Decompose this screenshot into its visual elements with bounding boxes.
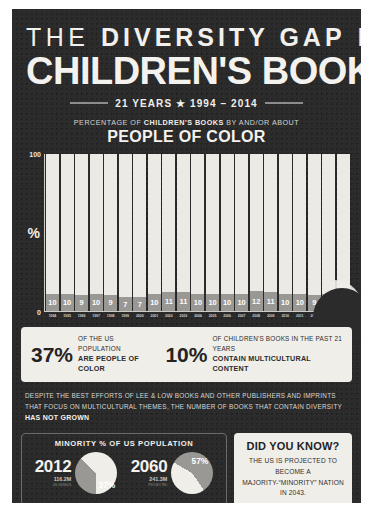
minority-population-panel: MINORITY % OF US POPULATION 2012 116.2M … xyxy=(21,433,227,503)
chart-bar-segment: 10 xyxy=(279,294,292,312)
chart-bar-value: 10 xyxy=(223,299,231,306)
chart-bar-segment: 9 xyxy=(75,295,88,312)
did-you-know-panel: DID YOU KNOW? THE US IS PROJECTED TO BEC… xyxy=(234,433,352,503)
chart-bar: 11 xyxy=(177,154,190,311)
pie-2060-labels: 2060 241.3M PROJECTED xyxy=(131,458,168,487)
pie-chart-2060: 57% xyxy=(171,452,213,494)
chart-bar: 10 xyxy=(61,154,74,311)
stat-band: 37% OF THE US POPULATIONARE PEOPLE OF CO… xyxy=(21,327,352,382)
x-axis-tick: 1997 xyxy=(90,314,103,318)
y-axis: 100 % 0 xyxy=(20,154,44,312)
pie-charts: 2012 116.2M US CENSUS 37% 2060 241.3M PR… xyxy=(28,452,220,494)
chart-bar: 9 xyxy=(104,154,117,311)
chart-bar-value: 11 xyxy=(165,298,173,305)
years-row: 21 YEARS ★ 1994 – 2014 xyxy=(26,98,347,109)
stat-population-text: OF THE US POPULATIONARE PEOPLE OF COLOR xyxy=(78,334,151,375)
chart-bar-value: 10 xyxy=(194,299,202,306)
chart-bar: 11 xyxy=(264,154,277,311)
x-axis-tick: 1994 xyxy=(46,314,59,318)
chart-bar-value: 11 xyxy=(179,298,187,305)
infographic-poster: THE DIVERSITY GAP IN CHILDREN'S BOOKS 21… xyxy=(12,9,361,503)
chart-bar: 10 xyxy=(90,154,103,311)
chart-bar-value: 9 xyxy=(80,299,84,306)
did-you-know-title: DID YOU KNOW? xyxy=(240,440,346,452)
x-axis-tick: 2003 xyxy=(177,314,190,318)
chart-bar-segment: 10 xyxy=(90,294,103,312)
x-axis-tick: 2007 xyxy=(235,314,248,318)
x-axis-tick: 2006 xyxy=(221,314,234,318)
rule-right xyxy=(265,102,303,104)
x-axis-tick: 2000 xyxy=(133,314,146,318)
pie-2060-note: PROJECTED xyxy=(131,483,168,487)
did-you-know-body: THE US IS PROJECTED TO BECOME A MAJORITY… xyxy=(240,456,346,500)
x-axis-labels: 1994199519961997199819992000200120022003… xyxy=(45,314,351,318)
chart-bar-value: 10 xyxy=(63,299,71,306)
pie-2060-year: 2060 xyxy=(131,458,168,475)
chart-bar-value: 7 xyxy=(138,301,142,308)
stat-books: 10% OF CHILDREN'S BOOKS IN THE PAST 21 Y… xyxy=(165,334,342,375)
x-axis-tick: 2009 xyxy=(264,314,277,318)
chart-title: PEOPLE OF COLOR xyxy=(26,128,347,146)
chart-bar-value: 10 xyxy=(281,299,289,306)
chart-bar: 10 xyxy=(235,154,248,311)
chart-bar-segment: 11 xyxy=(264,292,277,311)
chart-subtitle: PERCENTAGE OF CHILDREN'S BOOKS BY AND/OR… xyxy=(26,118,347,127)
chart-bar-segment: 12 xyxy=(250,291,263,311)
stat-books-number: 10% xyxy=(165,344,207,365)
chart-bar-value: 9 xyxy=(109,299,113,306)
chart-bar: 7 xyxy=(133,154,146,311)
page-title-line1: THE DIVERSITY GAP IN xyxy=(26,25,347,50)
pie-chart-2012: 37% xyxy=(75,452,117,494)
y-tick-100: 100 xyxy=(29,151,41,158)
chart-bar-segment: 10 xyxy=(206,294,219,312)
x-axis-tick: 1998 xyxy=(104,314,117,318)
chart-bar-value: 7 xyxy=(123,301,127,308)
chart-bar-value: 10 xyxy=(208,299,216,306)
pie-2012-labels: 2012 116.2M US CENSUS xyxy=(35,458,72,487)
chart-bar-value: 11 xyxy=(267,298,275,305)
minority-panel-title: MINORITY % OF US POPULATION xyxy=(28,439,220,448)
pie-2060-population: 241.3M xyxy=(131,476,168,482)
chart-bar: 10 xyxy=(191,154,204,311)
chart-bar-segment: 10 xyxy=(191,294,204,312)
x-axis-tick: 2005 xyxy=(206,314,219,318)
pie-2060-percent: 57% xyxy=(192,456,209,466)
chart-bar-value: 10 xyxy=(296,299,304,306)
chart-bar-segment: 10 xyxy=(235,294,248,312)
chart-bar-segment: 10 xyxy=(148,294,161,312)
chart-bar-value: 10 xyxy=(237,299,245,306)
chart-bar-segment: 7 xyxy=(119,297,132,311)
pie-2012-percent: 37% xyxy=(99,480,116,490)
y-axis-label: % xyxy=(28,225,40,241)
x-axis-tick: 2008 xyxy=(250,314,263,318)
pie-block-2060: 2060 241.3M PROJECTED 57% xyxy=(131,452,214,494)
pie-block-2012: 2012 116.2M US CENSUS 37% xyxy=(35,452,118,494)
chart-bar: 10 xyxy=(206,154,219,311)
pie-2012-population: 116.2M xyxy=(35,476,72,482)
chart-bar: 9 xyxy=(308,154,321,311)
years-range: 21 YEARS ★ 1994 – 2014 xyxy=(115,98,258,109)
pie-2012-year: 2012 xyxy=(35,458,72,475)
stat-population-number: 37% xyxy=(31,344,73,365)
chart-bar: 9 xyxy=(75,154,88,311)
lower-panels: MINORITY % OF US POPULATION 2012 116.2M … xyxy=(21,433,352,503)
x-axis-tick: 2004 xyxy=(191,314,204,318)
header: THE DIVERSITY GAP IN CHILDREN'S BOOKS 21… xyxy=(12,9,361,145)
x-axis-tick: 2011 xyxy=(293,314,306,318)
chart-bar-value: 10 xyxy=(48,299,56,306)
x-axis-tick: 1996 xyxy=(75,314,88,318)
chart-bar-segment: 7 xyxy=(133,297,146,311)
chart-bar-segment: 10 xyxy=(221,294,234,312)
chart-bar: 10 xyxy=(279,154,292,311)
chart-bar-segment: 10 xyxy=(293,294,306,312)
x-axis-tick: 2010 xyxy=(279,314,292,318)
x-axis-tick: 2001 xyxy=(148,314,161,318)
chart-bar-value: 12 xyxy=(252,298,260,305)
rule-left xyxy=(70,102,108,104)
summary-paragraph: DESPITE THE BEST EFFORTS OF LEE & LOW BO… xyxy=(25,391,348,424)
chart-bar-segment: 10 xyxy=(61,294,74,312)
chart-bar: 11 xyxy=(162,154,175,311)
chart-bar: 10 xyxy=(293,154,306,311)
chart-bar-value: 10 xyxy=(92,299,100,306)
chart-bar: 10 xyxy=(46,154,59,311)
